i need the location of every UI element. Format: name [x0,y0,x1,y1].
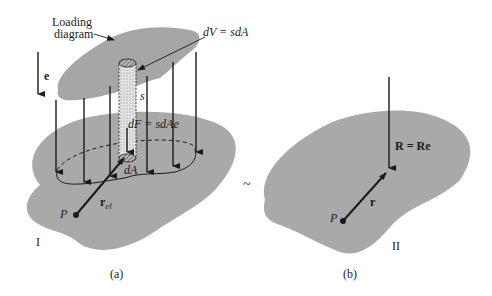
direction-label-e: e [44,70,49,82]
caption-b: (b) [343,268,357,280]
caption-a: (a) [110,268,123,280]
loading-label-line2: diagram [54,28,93,40]
point-label-P-b: P [330,212,337,224]
body-label-II: II [392,240,400,252]
loading-pointer [94,34,114,40]
distributed-load-figure: Loading diagram dV = sdA e s dF = sdAe d… [0,0,492,296]
point-P-a [73,212,79,218]
area-label-dA: dA [124,164,137,176]
volume-label: dV = sdA [203,26,248,38]
height-label-s: s [140,90,145,102]
force-label: dF = sdAe [128,118,179,130]
body-II [264,110,471,253]
position-vector-label-b: r [370,196,375,208]
resultant-label: R = Re [395,140,431,152]
position-vector-label-a: rel [100,196,112,211]
point-label-P-a: P [60,208,67,220]
equivalence-symbol: ~ [243,178,251,192]
point-P-b [340,218,346,224]
volume-element [119,59,136,162]
body-label-I: I [36,236,40,248]
